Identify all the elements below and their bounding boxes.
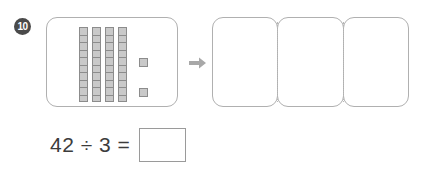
unit-cell [92,65,101,73]
unit-cell [105,27,114,35]
unit-cell [92,57,101,65]
group-divider [343,22,344,102]
tens-rod [92,27,101,102]
groups-container [212,17,409,107]
unit-cell [92,27,101,35]
unit-cell [105,65,114,73]
unit-cell [79,72,88,80]
unit-cell [118,50,127,58]
unit-cell [92,87,101,95]
unit-cell [92,95,101,103]
unit-cell [92,35,101,43]
unit-cell [79,35,88,43]
group-divider [277,22,278,102]
tens-rods-group [79,27,127,102]
unit-cell [118,87,127,95]
unit-cell [79,57,88,65]
unit-cell [105,57,114,65]
base-ten-blocks-panel [46,17,178,107]
unit-cell [118,35,127,43]
unit-cell [79,87,88,95]
equation-expression: 42 ÷ 3 = [50,133,130,157]
loose-unit-square [139,88,148,97]
unit-cell [118,65,127,73]
unit-cell [105,42,114,50]
unit-cell [79,65,88,73]
unit-cell [118,95,127,103]
tens-rod [118,27,127,102]
unit-cell [79,80,88,88]
unit-cell [105,72,114,80]
unit-cell [118,72,127,80]
unit-cell [92,42,101,50]
unit-cell [79,95,88,103]
group-box[interactable] [277,17,343,107]
unit-cell [118,57,127,65]
unit-cell [118,27,127,35]
unit-cell [118,80,127,88]
tens-rod [79,27,88,102]
unit-cell [105,80,114,88]
group-box[interactable] [212,17,278,107]
unit-cell [105,35,114,43]
unit-cell [79,50,88,58]
arrow-right-icon [189,56,207,70]
unit-cell [92,50,101,58]
loose-unit-square [139,58,148,67]
tens-rod [105,27,114,102]
unit-cell [105,95,114,103]
equation-row: 42 ÷ 3 = [50,126,186,164]
unit-cell [79,27,88,35]
unit-cell [118,42,127,50]
unit-cell [92,72,101,80]
unit-cell [105,87,114,95]
answer-input-box[interactable] [139,128,186,162]
unit-cell [92,80,101,88]
unit-cell [105,50,114,58]
group-box[interactable] [343,17,409,107]
unit-cell [79,42,88,50]
question-number-badge: 10 [14,18,31,35]
loose-ones-group [139,58,151,106]
